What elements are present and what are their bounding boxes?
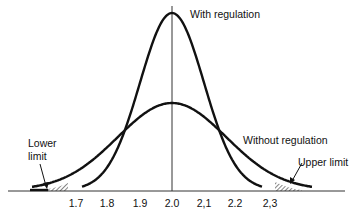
x-tick-label: 1.8	[100, 197, 115, 209]
distribution-chart	[0, 0, 355, 211]
lower-limit-label-line2: limit	[28, 150, 47, 162]
x-tick-label: 1.9	[133, 197, 148, 209]
upper-limit-label: Upper limit	[298, 156, 348, 168]
x-tick-label: 2.0	[165, 197, 180, 209]
x-tick-label: 2,3	[263, 197, 278, 209]
x-tick-label: 2,1	[197, 197, 212, 209]
without-regulation-label: Without regulation	[243, 134, 328, 146]
x-tick-label: 1.7	[69, 197, 84, 209]
lower-limit-shaded-region	[48, 183, 68, 191]
x-tick-label: 2.2	[228, 197, 243, 209]
lower-limit-label-line1: Lower	[28, 137, 57, 149]
with-regulation-label: With regulation	[190, 8, 260, 20]
